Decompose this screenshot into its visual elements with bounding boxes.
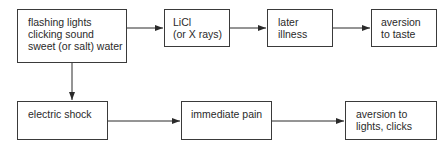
box-text-line: electric shock	[28, 108, 107, 120]
box-later-illness: later illness	[267, 9, 333, 47]
box-licl: LiCl (or X rays)	[164, 9, 230, 47]
box-text-line: immediate pain	[191, 108, 271, 120]
box-aversion-lights: aversion to lights, clicks	[345, 101, 437, 140]
box-text-line: (or X rays)	[173, 28, 229, 40]
box-text-line: illness	[278, 28, 332, 40]
box-text-line: aversion	[381, 16, 436, 28]
box-text-line: to taste	[381, 28, 436, 40]
box-text-line: aversion to	[356, 108, 436, 120]
box-text-line: LiCl	[173, 16, 229, 28]
box-immediate-pain: immediate pain	[181, 101, 272, 140]
box-electric-shock: electric shock	[17, 101, 108, 140]
box-text-line: clicking sound	[28, 28, 126, 40]
box-text-line: flashing lights	[28, 16, 126, 28]
box-stimuli: flashing lights clicking sound sweet (or…	[17, 9, 127, 63]
box-text-line: later	[278, 16, 332, 28]
box-text-line: sweet (or salt) water	[28, 40, 126, 52]
box-text-line: lights, clicks	[356, 120, 436, 132]
box-aversion-taste: aversion to taste	[371, 9, 437, 47]
